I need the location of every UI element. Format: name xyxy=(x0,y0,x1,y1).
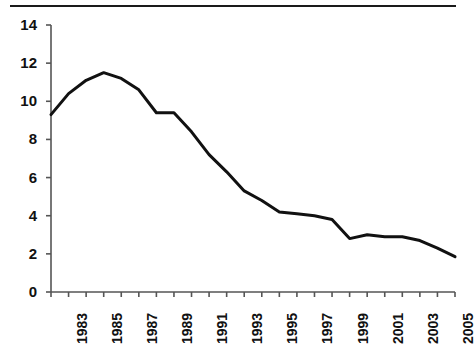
y-axis-tick-label: 2 xyxy=(11,246,37,261)
x-axis-tick-label: 2005 xyxy=(461,313,475,344)
x-axis-tick-label: 1997 xyxy=(320,313,334,344)
y-axis-tick-label: 10 xyxy=(11,93,37,108)
data-series-line xyxy=(51,73,455,257)
x-axis-tick-label: 2003 xyxy=(426,313,440,344)
x-axis-tick-label: 1993 xyxy=(250,313,264,344)
x-axis-tick-label: 1985 xyxy=(110,313,124,344)
y-axis-tick-label: 14 xyxy=(11,17,37,32)
y-axis-tick-label: 8 xyxy=(11,131,37,146)
x-axis-tick-label: 1983 xyxy=(75,313,89,344)
y-axis-tick-label: 12 xyxy=(11,55,37,70)
x-axis-tick-label: 1991 xyxy=(215,313,229,344)
x-axis-tick-label: 1995 xyxy=(285,313,299,344)
x-axis-tick-label: 1989 xyxy=(180,313,194,344)
axis-group xyxy=(46,25,455,297)
y-axis-tick-label: 4 xyxy=(11,208,37,223)
x-axis-tick-label: 1987 xyxy=(145,313,159,344)
x-axis-tick-label: 1999 xyxy=(356,313,370,344)
y-axis-tick-label: 0 xyxy=(11,284,37,299)
y-axis-tick-label: 6 xyxy=(11,170,37,185)
x-axis-tick-label: 2001 xyxy=(391,313,405,344)
